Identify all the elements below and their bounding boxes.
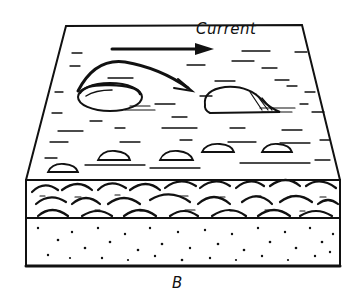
current-label: Current xyxy=(196,20,256,38)
block-diagram xyxy=(0,0,356,305)
water-dashes xyxy=(45,51,330,168)
figure-label: B xyxy=(172,274,182,292)
upturned-pebble xyxy=(78,83,155,111)
current-arrow-icon xyxy=(112,43,214,55)
block-front xyxy=(26,180,340,266)
sand-stipple xyxy=(37,227,334,262)
stable-pebble xyxy=(205,87,295,113)
